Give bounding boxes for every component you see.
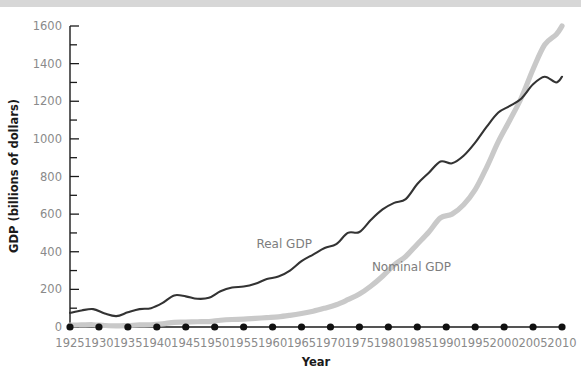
y-axis-title: GDP (billions of dollars) (7, 99, 21, 253)
x-axis-tick-label: 2005 (518, 336, 547, 350)
x-axis-marker-dot (327, 323, 334, 330)
x-axis-tick-label: 1940 (142, 336, 171, 350)
x-axis-tick-label: 1995 (461, 336, 490, 350)
x-axis-marker-dot (558, 323, 565, 330)
x-axis-tick-label: 1960 (258, 336, 287, 350)
x-axis-tick-label: 1935 (113, 336, 142, 350)
x-axis-marker-dot (529, 323, 536, 330)
series-line-real-gdp (70, 77, 562, 316)
y-axis-tick-label: 1200 (33, 94, 62, 108)
y-axis-tick-labels: 02004006008001000120014001600 (33, 19, 62, 334)
x-axis-marker-dot (501, 323, 508, 330)
x-axis-title: Year (301, 355, 331, 369)
x-axis-tick-label: 2010 (547, 336, 576, 350)
y-axis-tick-label: 400 (40, 245, 62, 259)
x-axis-tick-label: 1955 (229, 336, 258, 350)
y-axis-tick-label: 600 (40, 207, 62, 221)
series-lines (70, 26, 562, 326)
x-axis-tick-label: 1950 (200, 336, 229, 350)
series-label-real-gdp: Real GDP (256, 237, 311, 251)
x-axis-marker-dot (124, 323, 131, 330)
x-axis-marker-dot (443, 323, 450, 330)
chart-canvas: 02004006008001000120014001600 1925193019… (0, 0, 581, 374)
x-axis-marker-dot (240, 323, 247, 330)
x-axis-marker-dot (414, 323, 421, 330)
x-axis-marker-dot (182, 323, 189, 330)
x-axis-tick-label: 1925 (55, 336, 84, 350)
gdp-line-chart: 02004006008001000120014001600 1925193019… (0, 0, 581, 374)
y-axis-tick-label: 1400 (33, 57, 62, 71)
x-axis-marker-dot (472, 323, 479, 330)
y-axis-tick-label: 800 (40, 170, 62, 184)
x-axis-marker-dot (95, 323, 102, 330)
y-axis-major-ticks (70, 26, 79, 327)
x-axis-tick-label: 1985 (403, 336, 432, 350)
series-line-nominal-gdp (70, 26, 562, 326)
x-axis-tick-labels: 1925193019351940194519501955196019651970… (55, 336, 576, 350)
x-axis-tick-label: 2000 (489, 336, 518, 350)
x-axis-tick-label: 1980 (374, 336, 403, 350)
x-axis-marker-dot (211, 323, 218, 330)
x-axis-tick-label: 1930 (84, 336, 113, 350)
x-axis-marker-dot (66, 323, 73, 330)
x-axis-tick-label: 1945 (171, 336, 200, 350)
y-axis-tick-label: 0 (55, 320, 62, 334)
y-axis-tick-label: 1000 (33, 132, 62, 146)
x-axis-tick-label: 1965 (287, 336, 316, 350)
y-axis-tick-label: 1600 (33, 19, 62, 33)
x-axis-marker-dot (356, 323, 363, 330)
x-axis-marker-dot (269, 323, 276, 330)
series-label-nominal-gdp: Nominal GDP (372, 260, 451, 274)
x-axis-marker-dot (385, 323, 392, 330)
x-axis-tick-label: 1975 (345, 336, 374, 350)
x-axis-marker-dot (153, 323, 160, 330)
x-axis-tick-label: 1990 (432, 336, 461, 350)
y-axis-tick-label: 200 (40, 282, 62, 296)
x-axis-tick-label: 1970 (316, 336, 345, 350)
x-axis-marker-dot (298, 323, 305, 330)
